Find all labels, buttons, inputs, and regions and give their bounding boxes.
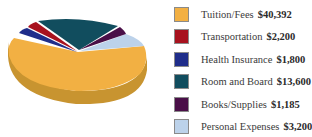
legend-swatch: [174, 7, 189, 22]
legend-label: Books/Supplies$1,185: [201, 99, 300, 110]
legend-swatch: [174, 119, 189, 134]
legend-item-health-insurance: Health Insurance$1,800: [174, 48, 312, 70]
legend-label: Transportation$2,200: [201, 31, 295, 42]
legend-item-personal-expenses: Personal Expenses$3,200: [174, 116, 312, 137]
legend-item-tuition: Tuition/Fees$40,392: [174, 3, 312, 25]
legend-label: Health Insurance$1,800: [201, 54, 305, 65]
legend-item-transportation: Transportation$2,200: [174, 26, 312, 48]
legend-swatch: [174, 29, 189, 44]
legend-swatch: [174, 97, 189, 112]
legend-label: Tuition/Fees$40,392: [201, 9, 292, 20]
legend-swatch: [174, 74, 189, 89]
legend-label: Room and Board$13,600: [201, 76, 311, 87]
legend-item-room-board: Room and Board$13,600: [174, 71, 312, 93]
pie-chart: [0, 0, 160, 137]
legend-item-books-supplies: Books/Supplies$1,185: [174, 93, 312, 115]
chart-legend: Tuition/Fees$40,392 Transportation$2,200…: [174, 3, 312, 137]
legend-swatch: [174, 52, 189, 67]
legend-label: Personal Expenses$3,200: [201, 121, 312, 132]
